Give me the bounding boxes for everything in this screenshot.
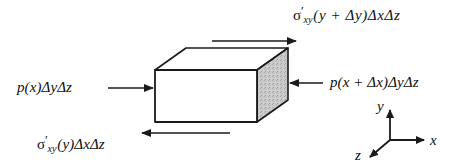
axis-label-x: x bbox=[430, 133, 437, 148]
stress-element-figure: σ′xy(y + Δy)ΔxΔz σ′xy(y)ΔxΔz p(x)ΔyΔz p(… bbox=[0, 0, 462, 165]
axis-label-y: y bbox=[377, 99, 384, 114]
axis-z-line bbox=[370, 140, 390, 157]
subscript-bottom: xy bbox=[47, 143, 56, 154]
label-bottom-shear-stress: σ′xy(y)ΔxΔz bbox=[37, 137, 105, 152]
label-top-rest: (y + Δy)ΔxΔz bbox=[313, 7, 400, 23]
subscript-top: xy bbox=[303, 14, 312, 25]
label-top-shear-stress: σ′xy(y + Δy)ΔxΔz bbox=[293, 8, 400, 23]
axis-label-z: z bbox=[355, 148, 361, 163]
box-front-face bbox=[155, 70, 257, 122]
sigma-symbol-bottom: σ bbox=[37, 136, 45, 152]
label-right-pressure: p(x + Δx)ΔyΔz bbox=[330, 75, 419, 90]
sigma-symbol-top: σ bbox=[293, 7, 301, 23]
label-left-pressure: p(x)ΔyΔz bbox=[17, 80, 72, 95]
label-bottom-rest: (y)ΔxΔz bbox=[57, 136, 104, 152]
